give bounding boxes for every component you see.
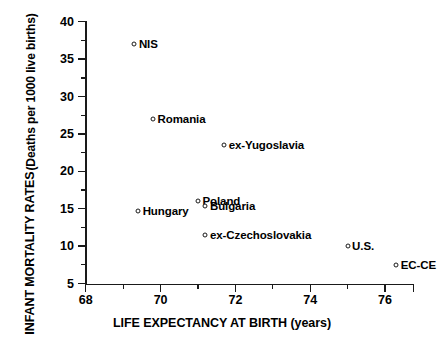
plot-area: NISRomaniaex-YugoslaviaPolandBulgariaHun… bbox=[0, 0, 444, 348]
data-point-marker[interactable] bbox=[203, 203, 208, 208]
x-axis-title: LIFE EXPECTANCY AT BIRTH (years) bbox=[0, 316, 444, 330]
data-point-marker[interactable] bbox=[345, 244, 350, 249]
data-point-marker[interactable] bbox=[222, 143, 227, 148]
data-point-marker[interactable] bbox=[132, 42, 137, 47]
data-point-marker[interactable] bbox=[203, 232, 208, 237]
data-point-label: NIS bbox=[139, 38, 158, 50]
data-point-label: Bulgaria bbox=[210, 200, 255, 212]
data-point-marker[interactable] bbox=[394, 262, 399, 267]
scatter-chart-figure: INFANT MORTALITY RATES (Deaths per 1000 … bbox=[0, 0, 444, 348]
data-point-label: Romania bbox=[158, 113, 206, 125]
data-point-label: EC-CE bbox=[401, 259, 436, 271]
data-point-label: ex-Yugoslavia bbox=[229, 139, 304, 151]
data-point-marker[interactable] bbox=[196, 199, 201, 204]
data-point-label: ex-Czechoslovakia bbox=[210, 229, 311, 241]
data-point-label: Hungary bbox=[143, 205, 189, 217]
data-point-marker[interactable] bbox=[136, 208, 141, 213]
data-point-label: U.S. bbox=[352, 240, 374, 252]
data-point-marker[interactable] bbox=[151, 117, 156, 122]
